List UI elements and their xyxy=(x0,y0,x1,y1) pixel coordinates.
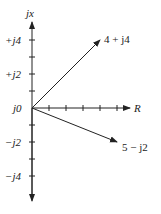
tick-label-minus-j4: −j4 xyxy=(5,170,21,182)
diagram-canvas: jx R j0 +j4 +j2 −j2 −j4 4 + j4 5 − j2 xyxy=(0,0,161,214)
tick-label-minus-j2: −j2 xyxy=(5,136,21,148)
vector-4-plus-j4 xyxy=(32,40,100,108)
origin-label: j0 xyxy=(11,102,22,114)
horizontal-axis-label: R xyxy=(133,102,141,114)
vertical-axis-label: jx xyxy=(24,7,34,19)
tick-label-plus-j4: +j4 xyxy=(5,34,21,46)
complex-plane-diagram: jx R j0 +j4 +j2 −j2 −j4 4 + j4 5 − j2 xyxy=(0,0,161,214)
tick-label-plus-j2: +j2 xyxy=(5,68,21,80)
vector-label-5-minus-j2: 5 − j2 xyxy=(122,141,148,153)
vector-label-4-plus-j4: 4 + j4 xyxy=(104,33,130,45)
vector-5-minus-j2 xyxy=(32,108,117,142)
